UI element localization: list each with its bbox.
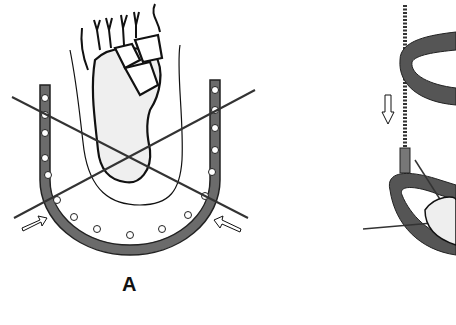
panel-a-illustration — [0, 0, 456, 325]
arrow-down-icon — [382, 95, 394, 124]
panel-a-label: A — [122, 273, 136, 296]
figure: A — [0, 0, 456, 325]
panel-b-illustration — [363, 5, 456, 255]
arrow-left-icon — [22, 216, 47, 231]
arrow-right-icon — [214, 216, 241, 232]
foot-bones — [93, 35, 162, 182]
